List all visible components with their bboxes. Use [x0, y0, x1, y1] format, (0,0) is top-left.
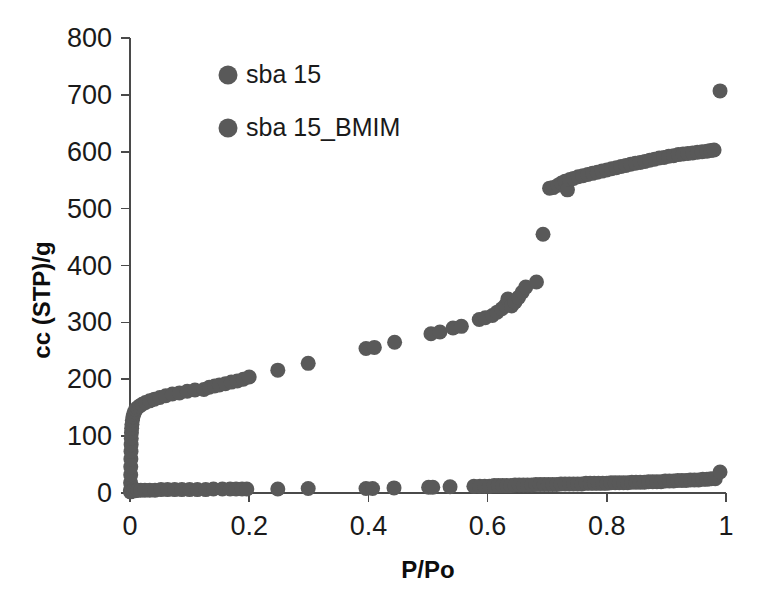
data-series-layer	[123, 83, 728, 499]
x-tick-label: 0.2	[230, 511, 268, 541]
data-point	[301, 356, 316, 371]
data-point	[365, 481, 380, 496]
data-point	[270, 363, 285, 378]
y-tick-label: 800	[67, 23, 112, 53]
data-point	[239, 482, 254, 497]
data-point	[432, 325, 447, 340]
data-point	[454, 319, 469, 334]
data-point	[270, 482, 285, 497]
x-tick-label: 0.8	[588, 511, 626, 541]
x-tick-label: 0	[122, 511, 137, 541]
legend-label-1: sba 15	[246, 60, 321, 88]
y-tick-label: 400	[67, 251, 112, 281]
y-tick-label: 700	[67, 80, 112, 110]
y-tick-label: 300	[67, 307, 112, 337]
x-tick-label: 1	[718, 511, 733, 541]
x-axis-ticks: 00.20.40.60.81	[122, 493, 733, 541]
y-axis-ticks: 0100200300400500600700800	[67, 23, 130, 508]
y-tick-label: 0	[97, 478, 112, 508]
y-tick-label: 600	[67, 137, 112, 167]
series-1	[123, 83, 728, 497]
data-point	[367, 340, 382, 355]
data-point	[387, 480, 402, 495]
chart-legend: sba 15sba 15_BMIM	[219, 60, 401, 141]
y-tick-label: 200	[67, 364, 112, 394]
x-axis-title: P/Po	[401, 556, 454, 583]
y-tick-label: 100	[67, 421, 112, 451]
legend-marker-1	[219, 66, 238, 85]
data-point	[242, 369, 257, 384]
data-point	[301, 481, 316, 496]
x-tick-label: 0.6	[469, 511, 507, 541]
chart-page: 0100200300400500600700800 00.20.40.60.81…	[0, 0, 775, 611]
data-point	[529, 274, 544, 289]
data-point	[387, 335, 402, 350]
legend-label-2: sba 15_BMIM	[246, 113, 400, 141]
axes-group	[130, 38, 726, 493]
legend-marker-2	[219, 119, 238, 138]
data-point	[713, 464, 728, 479]
data-point	[536, 227, 551, 242]
data-point	[707, 143, 722, 158]
x-tick-label: 0.4	[350, 511, 388, 541]
adsorption-isotherm-chart: 0100200300400500600700800 00.20.40.60.81…	[0, 0, 775, 611]
y-tick-label: 500	[67, 194, 112, 224]
data-point	[443, 479, 458, 494]
series-2	[123, 464, 728, 499]
data-point	[713, 83, 728, 98]
data-point	[425, 480, 440, 495]
y-axis-title: cc (STP)/g	[28, 241, 55, 358]
